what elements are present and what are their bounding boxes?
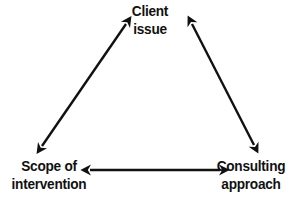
node-consulting-approach-line2: approach: [210, 175, 293, 193]
node-client-issue-line1: Client: [115, 2, 185, 20]
node-scope-of-intervention: Scope of intervention: [8, 157, 91, 193]
triangle-diagram: Client issue Scope of intervention Consu…: [0, 0, 299, 201]
node-client-issue: Client issue: [115, 2, 185, 38]
node-consulting-approach: Consulting approach: [210, 157, 293, 193]
node-consulting-approach-line1: Consulting: [210, 157, 293, 175]
node-scope-of-intervention-line1: Scope of: [8, 157, 91, 175]
node-client-issue-line2: issue: [115, 20, 185, 38]
node-scope-of-intervention-line2: intervention: [8, 175, 91, 193]
connector-scope-to-client: [42, 24, 126, 146]
connector-client-to-consulting: [192, 24, 254, 145]
